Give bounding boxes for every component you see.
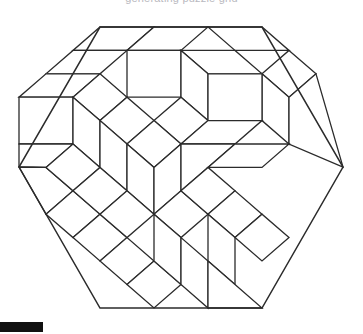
rhombus-tile[interactable] — [208, 27, 289, 50]
rhombus-tile[interactable] — [181, 238, 208, 308]
puzzle-stage: generating puzzle grid — [0, 0, 363, 334]
rhombus-tile[interactable] — [46, 50, 127, 73]
rhombus-tiled-hexagon[interactable] — [0, 0, 363, 334]
rhombus-tile[interactable] — [127, 50, 181, 97]
rhombus-tile[interactable] — [208, 74, 262, 121]
tile-group — [19, 27, 343, 308]
progress-bar — [0, 322, 43, 332]
